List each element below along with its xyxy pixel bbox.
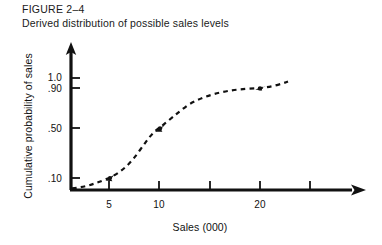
figure-container: FIGURE 2–4 Derived distribution of possi… <box>0 0 382 245</box>
data-point-dot-20 <box>258 86 262 90</box>
plot-area <box>0 0 382 245</box>
x-axis-arrowhead <box>351 185 366 196</box>
data-point-dot-10 <box>158 126 162 130</box>
cdf-curve <box>72 82 288 189</box>
data-point-dot-5 <box>108 176 112 180</box>
